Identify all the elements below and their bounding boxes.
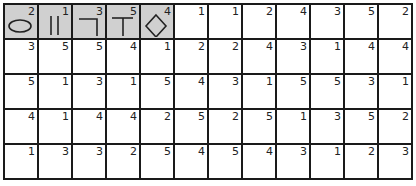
grid-cell[interactable]: 4 — [73, 110, 107, 145]
grid-cell[interactable]: 1 — [209, 5, 243, 40]
cell-value: 5 — [368, 111, 375, 122]
cell-value: 2 — [402, 111, 409, 122]
cell-value: 3 — [300, 41, 307, 52]
grid-cell[interactable]: 3 — [277, 145, 311, 180]
grid-cell[interactable]: 4 — [5, 110, 39, 145]
grid-cell[interactable]: 4 — [107, 110, 141, 145]
cell-value: 2 — [198, 41, 205, 52]
grid-cell[interactable]: 3 — [277, 40, 311, 75]
grid-cell[interactable]: 5 — [141, 75, 175, 110]
shape-cell-ellipse[interactable]: 2 — [5, 5, 39, 40]
cell-value: 5 — [130, 6, 137, 17]
cell-value: 1 — [164, 41, 171, 52]
cell-value: 1 — [266, 76, 273, 87]
cell-value: 5 — [368, 6, 375, 17]
cell-value: 2 — [232, 111, 239, 122]
grid-cell[interactable]: 1 — [379, 75, 413, 110]
cell-value: 1 — [402, 76, 409, 87]
cell-value: 3 — [402, 146, 409, 157]
grid-cell[interactable]: 3 — [379, 145, 413, 180]
cell-value: 4 — [28, 111, 35, 122]
grid-cell[interactable]: 1 — [5, 145, 39, 180]
grid-cell[interactable]: 2 — [209, 40, 243, 75]
shape-cell-corner[interactable]: 3 — [73, 5, 107, 40]
grid-cell[interactable]: 3 — [73, 145, 107, 180]
grid-cell[interactable]: 3 — [5, 40, 39, 75]
cell-value: 5 — [164, 146, 171, 157]
grid-cell[interactable]: 1 — [39, 75, 73, 110]
cell-value: 4 — [96, 111, 103, 122]
grid-cell[interactable]: 5 — [5, 75, 39, 110]
grid-cell[interactable]: 4 — [345, 40, 379, 75]
grid-cell[interactable]: 4 — [243, 40, 277, 75]
grid-cell[interactable]: 3 — [39, 145, 73, 180]
cell-value: 5 — [300, 76, 307, 87]
grid-cell[interactable]: 5 — [311, 75, 345, 110]
cell-value: 1 — [334, 146, 341, 157]
grid-cell[interactable]: 5 — [243, 110, 277, 145]
grid-cell[interactable]: 1 — [311, 145, 345, 180]
cell-value: 4 — [198, 146, 205, 157]
grid-cell[interactable]: 4 — [175, 145, 209, 180]
cell-value: 4 — [164, 6, 171, 17]
grid-cell[interactable]: 2 — [107, 145, 141, 180]
grid-cell[interactable]: 2 — [379, 110, 413, 145]
cell-value: 2 — [28, 6, 35, 17]
cell-value: 1 — [62, 111, 69, 122]
grid-cell[interactable]: 3 — [73, 75, 107, 110]
grid-cell[interactable]: 5 — [73, 40, 107, 75]
grid-cell[interactable]: 5 — [209, 145, 243, 180]
grid-cell[interactable]: 4 — [175, 75, 209, 110]
grid-cell[interactable]: 2 — [345, 145, 379, 180]
cell-value: 4 — [300, 6, 307, 17]
cell-value: 3 — [300, 146, 307, 157]
grid-cell[interactable]: 3 — [209, 75, 243, 110]
grid-cell[interactable]: 5 — [277, 75, 311, 110]
cell-value: 4 — [402, 41, 409, 52]
grid-cell[interactable]: 4 — [107, 40, 141, 75]
grid-cell[interactable]: 1 — [175, 5, 209, 40]
grid-cell[interactable]: 5 — [345, 110, 379, 145]
grid-cell[interactable]: 2 — [379, 5, 413, 40]
grid-cell[interactable]: 5 — [39, 40, 73, 75]
shape-cell-diamond[interactable]: 4 — [141, 5, 175, 40]
grid-cell[interactable]: 2 — [175, 40, 209, 75]
grid-cell[interactable]: 5 — [345, 5, 379, 40]
grid-cell[interactable]: 2 — [243, 5, 277, 40]
cell-value: 3 — [96, 146, 103, 157]
grid-cell[interactable]: 5 — [175, 110, 209, 145]
grid-cell[interactable]: 1 — [277, 110, 311, 145]
cell-value: 5 — [96, 41, 103, 52]
cell-value: 5 — [266, 111, 273, 122]
cell-value: 1 — [62, 6, 69, 17]
grid-cell[interactable]: 1 — [107, 75, 141, 110]
cell-value: 4 — [130, 111, 137, 122]
cell-value: 5 — [334, 76, 341, 87]
grid-cell[interactable]: 1 — [311, 40, 345, 75]
cell-value: 5 — [62, 41, 69, 52]
cell-value: 2 — [164, 111, 171, 122]
cell-value: 5 — [28, 76, 35, 87]
cell-value: 2 — [266, 6, 273, 17]
grid-cell[interactable]: 3 — [311, 110, 345, 145]
cell-value: 3 — [96, 76, 103, 87]
grid-cell[interactable]: 4 — [379, 40, 413, 75]
grid-cell[interactable]: 4 — [277, 5, 311, 40]
cell-value: 1 — [300, 111, 307, 122]
grid-cell[interactable]: 1 — [243, 75, 277, 110]
shape-cell-double-bar[interactable]: 1 — [39, 5, 73, 40]
cell-value: 1 — [334, 41, 341, 52]
grid-cell[interactable]: 1 — [39, 110, 73, 145]
grid-cell[interactable]: 5 — [141, 145, 175, 180]
cell-value: 4 — [266, 41, 273, 52]
cell-value: 2 — [368, 146, 375, 157]
grid-cell[interactable]: 3 — [311, 5, 345, 40]
grid-cell[interactable]: 2 — [209, 110, 243, 145]
grid-cell[interactable]: 4 — [243, 145, 277, 180]
cell-value: 2 — [232, 41, 239, 52]
cell-value: 3 — [334, 6, 341, 17]
grid-cell[interactable]: 1 — [141, 40, 175, 75]
shape-cell-t-shape[interactable]: 5 — [107, 5, 141, 40]
grid-cell[interactable]: 3 — [345, 75, 379, 110]
grid-cell[interactable]: 2 — [141, 110, 175, 145]
